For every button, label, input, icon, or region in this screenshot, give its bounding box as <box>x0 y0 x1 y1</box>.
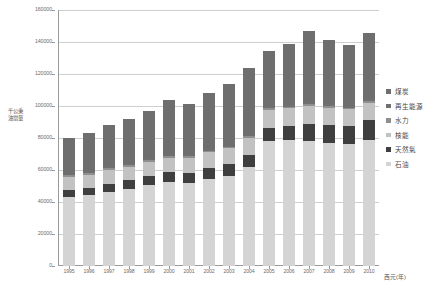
bar-segment-核能 <box>203 152 215 168</box>
bar-segment-煤炭 <box>243 68 255 134</box>
bar-segment-石油 <box>63 197 75 266</box>
legend-swatch-icon <box>386 118 391 123</box>
legend-label: 核能 <box>395 130 409 140</box>
bar-segment-核能 <box>323 108 335 126</box>
legend-item-coal[interactable]: 煤炭 <box>386 84 444 99</box>
bar-segment-石油 <box>243 167 255 266</box>
bar-segment-石油 <box>363 140 375 266</box>
bar-1995 <box>63 138 75 266</box>
x-axis-tick <box>229 266 230 269</box>
bar-segment-天然氣 <box>203 168 215 178</box>
legend-item-hydro[interactable]: 水力 <box>386 113 444 128</box>
y-axis-labels: 0200004000060000800001000001200001400001… <box>0 10 56 266</box>
bar-segment-核能 <box>363 103 375 121</box>
legend-item-renewable[interactable]: 再生能源 <box>386 99 444 114</box>
bar-segment-石油 <box>183 183 195 266</box>
bar-segment-煤炭 <box>163 100 175 154</box>
bar-segment-天然氣 <box>103 184 115 192</box>
y-axis-tick-label: 160000 <box>35 7 52 12</box>
legend-label: 石油 <box>395 159 409 169</box>
stacked-bar-chart: 0200004000060000800001000001200001400001… <box>0 0 446 295</box>
x-axis-tick <box>209 266 210 269</box>
legend-item-oil[interactable]: 石油 <box>386 157 444 172</box>
bar-segment-煤炭 <box>303 31 315 103</box>
legend-swatch-icon <box>386 133 391 138</box>
bar-2006 <box>283 44 295 266</box>
x-axis-tick <box>329 266 330 269</box>
bar-segment-天然氣 <box>183 173 195 183</box>
legend-item-nuclear[interactable]: 核能 <box>386 128 444 143</box>
bar-segment-核能 <box>223 148 235 164</box>
y-axis-tick <box>52 266 55 267</box>
bar-segment-核能 <box>103 170 115 184</box>
bar-segment-天然氣 <box>343 126 355 144</box>
bar-segment-天然氣 <box>363 120 375 140</box>
y-axis-tick-label: 20000 <box>38 231 52 236</box>
bar-segment-天然氣 <box>243 155 255 167</box>
bar-segment-煤炭 <box>223 84 235 146</box>
bar-1999 <box>143 111 155 266</box>
bar-segment-核能 <box>283 108 295 126</box>
y-axis-tick-label: 80000 <box>38 135 52 140</box>
x-axis-tick <box>109 266 110 269</box>
legend-label: 天然氣 <box>395 144 417 154</box>
bar-segment-核能 <box>63 177 75 190</box>
bar-segment-天然氣 <box>83 188 95 195</box>
bar-1998 <box>123 119 135 266</box>
x-axis-tick <box>249 266 250 269</box>
legend-swatch-icon <box>386 162 391 167</box>
bar-segment-核能 <box>243 138 255 155</box>
x-axis-labels: 1995199619971998199920002001200220032004… <box>59 268 379 282</box>
y-axis-tick <box>52 234 55 235</box>
bar-segment-天然氣 <box>123 180 135 189</box>
bar-segment-石油 <box>303 141 315 266</box>
bar-2004 <box>243 68 255 266</box>
y-axis-tick <box>52 74 55 75</box>
bar-segment-石油 <box>283 140 295 266</box>
bar-segment-天然氣 <box>163 172 175 182</box>
bar-segment-石油 <box>103 192 115 266</box>
x-axis-tick <box>169 266 170 269</box>
x-axis-tick <box>369 266 370 269</box>
bar-2000 <box>163 100 175 266</box>
bar-group <box>59 10 379 266</box>
x-axis-tick <box>149 266 150 269</box>
bar-2002 <box>203 93 215 266</box>
bar-segment-煤炭 <box>143 111 155 159</box>
legend-label: 煤炭 <box>395 86 409 96</box>
y-axis-tick <box>52 42 55 43</box>
bar-segment-煤炭 <box>83 133 95 172</box>
bar-segment-核能 <box>343 109 355 126</box>
x-axis-tick <box>269 266 270 269</box>
bar-segment-石油 <box>343 144 355 266</box>
bar-segment-煤炭 <box>63 138 75 175</box>
bar-segment-石油 <box>163 182 175 266</box>
bar-2005 <box>263 51 275 266</box>
bar-segment-石油 <box>83 195 95 266</box>
bar-segment-天然氣 <box>263 128 275 142</box>
bar-2008 <box>323 40 335 266</box>
bar-segment-煤炭 <box>123 119 135 164</box>
x-axis-title: 西元(年) <box>384 272 406 281</box>
bar-segment-核能 <box>263 110 275 128</box>
x-axis-tick <box>69 266 70 269</box>
y-axis-tick-label: 60000 <box>38 167 52 172</box>
bar-2001 <box>183 104 195 266</box>
y-axis-tick <box>52 106 55 107</box>
legend-item-natural-gas[interactable]: 天然氣 <box>386 142 444 157</box>
bar-segment-煤炭 <box>203 93 215 150</box>
bar-segment-天然氣 <box>323 125 335 143</box>
bar-segment-核能 <box>303 106 315 124</box>
bar-segment-煤炭 <box>283 44 295 105</box>
bar-segment-石油 <box>143 185 155 266</box>
x-axis-tick <box>189 266 190 269</box>
bar-1997 <box>103 125 115 266</box>
y-axis-tick <box>52 202 55 203</box>
bar-segment-核能 <box>183 158 195 173</box>
y-axis-title-line2: 油當量 <box>8 115 38 122</box>
bar-segment-煤炭 <box>183 104 195 155</box>
bar-segment-核能 <box>83 175 95 188</box>
bar-segment-石油 <box>263 141 275 266</box>
y-axis-tick-label: 120000 <box>35 71 52 76</box>
y-axis-title-line1: 千公秉 <box>8 108 38 115</box>
